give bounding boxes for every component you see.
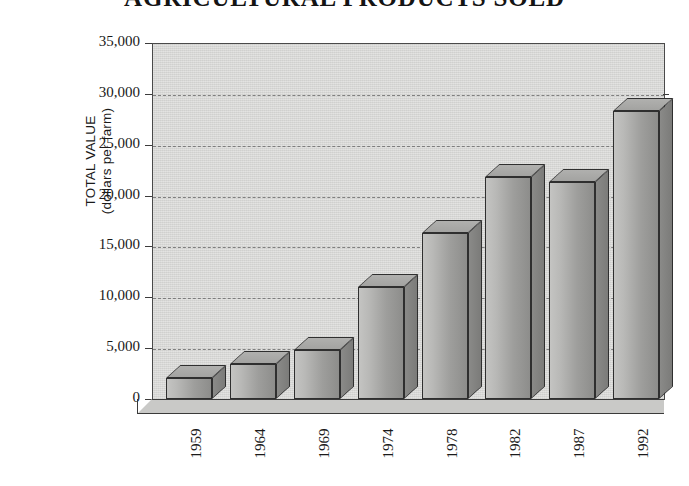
bar[interactable] — [549, 182, 595, 399]
y-tick-mark-right — [663, 94, 669, 95]
y-tick-label: 0 — [22, 389, 140, 406]
y-tick-label: 20,000 — [22, 186, 140, 203]
chart-title: AGRICULTURAL PRODUCTS SOLD — [0, 0, 689, 12]
y-tick-mark — [145, 246, 152, 247]
chart-floor-face — [137, 399, 664, 414]
bar[interactable] — [166, 378, 212, 399]
x-tick-label: 1964 — [251, 414, 268, 474]
y-tick-label: 25,000 — [22, 135, 140, 152]
y-tick-mark — [145, 43, 152, 44]
bar[interactable] — [485, 177, 531, 399]
bar-side-face — [659, 99, 673, 399]
chart-floor-edge — [137, 399, 154, 414]
bar-series — [152, 43, 663, 399]
bar-front-face — [549, 182, 595, 399]
bar-front-face — [166, 378, 212, 399]
y-tick-label: 10,000 — [22, 287, 140, 304]
y-tick-mark — [145, 348, 152, 349]
bar-front-face — [485, 177, 531, 399]
bar-side-face — [595, 170, 609, 399]
x-axis-baseline — [152, 399, 664, 400]
y-tick-label: 30,000 — [22, 84, 140, 101]
bar-front-face — [613, 111, 659, 399]
x-axis: 19591964196919741978198219871992 — [152, 413, 663, 483]
y-axis-title-line-2: (dollars per farm) — [99, 76, 115, 246]
bar-side-face — [468, 221, 482, 399]
y-tick-mark — [145, 145, 152, 146]
y-tick-label: 5,000 — [22, 338, 140, 355]
x-tick-label: 1982 — [507, 414, 524, 474]
y-tick-mark — [145, 196, 152, 197]
bar[interactable] — [358, 287, 404, 399]
y-tick-mark — [145, 297, 152, 298]
x-tick-label: 1959 — [188, 414, 205, 474]
bar[interactable] — [613, 111, 659, 399]
bar-front-face — [230, 364, 276, 399]
bar[interactable] — [230, 364, 276, 399]
x-tick-label: 1978 — [443, 414, 460, 474]
y-tick-label: 35,000 — [22, 33, 140, 50]
x-tick-label: 1974 — [379, 414, 396, 474]
x-tick-label: 1992 — [635, 414, 652, 474]
bar-front-face — [358, 287, 404, 399]
bar[interactable] — [294, 350, 340, 399]
bar-front-face — [422, 233, 468, 399]
y-axis-title: TOTAL VALUE (dollars per farm) — [83, 76, 115, 246]
bar-side-face — [404, 275, 418, 399]
y-tick-mark — [145, 94, 152, 95]
y-tick-label: 15,000 — [22, 236, 140, 253]
bar-front-face — [294, 350, 340, 399]
bar-side-face — [531, 165, 545, 399]
bar[interactable] — [422, 233, 468, 399]
chart-floor — [137, 399, 664, 413]
x-tick-label: 1969 — [315, 414, 332, 474]
x-tick-label: 1987 — [571, 414, 588, 474]
